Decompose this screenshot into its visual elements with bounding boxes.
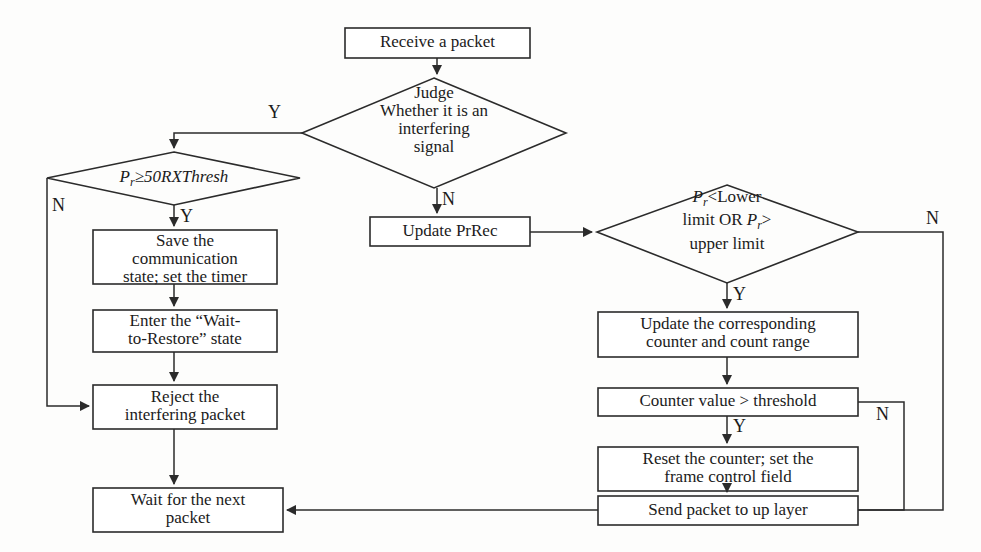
node-save-state-shape xyxy=(93,230,277,284)
flowchart-svg xyxy=(0,0,981,552)
node-send-up-layer-shape xyxy=(598,496,858,525)
node-limit-check-shape xyxy=(597,185,858,283)
edge-judge-yes-to-pr-threshold xyxy=(174,133,302,148)
node-judge-interfering-shape xyxy=(302,78,566,188)
node-update-prrec-shape xyxy=(370,217,530,246)
node-receive-packet-shape xyxy=(345,28,530,58)
node-counter-threshold-shape xyxy=(598,388,858,416)
node-wait-to-restore-shape xyxy=(93,310,277,352)
node-wait-next-packet-shape xyxy=(93,488,283,532)
node-reset-counter-shape xyxy=(598,447,858,491)
edge-limit-check-no-to-send-up-layer xyxy=(858,232,943,510)
edge-counter-threshold-no-to-send-up-layer xyxy=(858,402,904,510)
node-update-counter-shape xyxy=(598,312,858,357)
node-pr-threshold-shape xyxy=(47,152,300,205)
flowchart-canvas: Receive a packet Judge Whether it is an … xyxy=(0,0,981,552)
node-reject-packet-shape xyxy=(93,385,277,429)
edge-pr-threshold-no-to-reject xyxy=(47,178,89,406)
